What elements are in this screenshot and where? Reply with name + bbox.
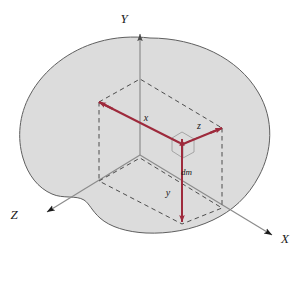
rigid-body-coordinate-diagram: Y Z X x z y dm bbox=[0, 0, 306, 292]
dimension-label-x: x bbox=[143, 112, 149, 123]
axis-label-z: Z bbox=[10, 207, 18, 222]
dimension-label-z: z bbox=[196, 120, 201, 131]
figure-container: Y Z X x z y dm bbox=[0, 0, 306, 292]
mass-element-label: dm bbox=[181, 167, 193, 177]
rigid-body-shape bbox=[20, 37, 270, 233]
body-outline bbox=[20, 37, 270, 233]
axis-label-x: X bbox=[280, 231, 290, 246]
element-center-dot bbox=[180, 142, 184, 146]
dimension-label-y: y bbox=[165, 187, 171, 198]
axis-label-y: Y bbox=[120, 11, 129, 26]
